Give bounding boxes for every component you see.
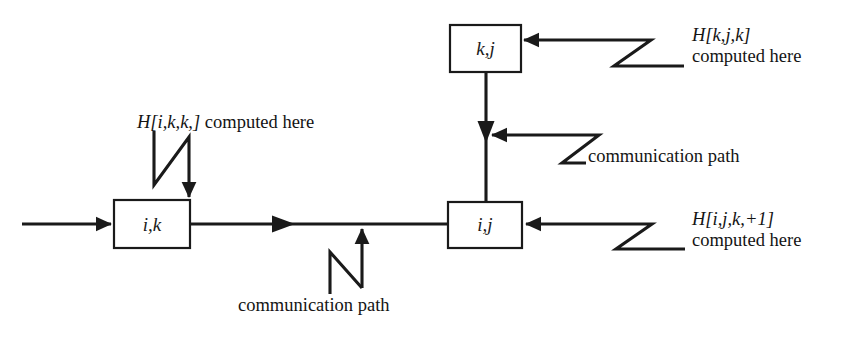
- leader-zigzag-comm-bottom: [330, 252, 362, 294]
- annotation-h-ijk1: H[i,j,k,+1] computed here: [692, 209, 801, 250]
- leader-zigzag-ikk: [154, 131, 189, 185]
- annotation-h-kjk-expression: H[k,j,k]: [692, 25, 751, 45]
- node-label-kj: k,j: [476, 38, 494, 59]
- annotation-communication-path-right: communication path: [588, 146, 740, 167]
- annotation-h-ikk: H[i,k,k,] computed here: [137, 112, 314, 133]
- annotation-h-kjk: H[k,j,k] computed here: [692, 25, 801, 66]
- annotation-h-ijk1-line2: computed here: [692, 230, 801, 251]
- diagram-canvas: i,k k,j i,j H[i,k,k,] computed here H[k,…: [0, 0, 861, 341]
- bus-arrowhead-right: [272, 216, 295, 233]
- leader-zigzag-kjk: [610, 40, 684, 66]
- leader-zigzag-ijk1: [612, 224, 685, 249]
- annotation-h-ijk1-expression: H[i,j,k,+1]: [692, 209, 774, 229]
- annotation-h-kjk-line2: computed here: [692, 46, 801, 67]
- node-label-ik: i,k: [143, 214, 162, 235]
- node-boxes: i,k k,j i,j: [114, 25, 522, 248]
- annotation-h-ikk-expression: H[i,k,k,]: [137, 112, 200, 132]
- node-label-ij: i,j: [477, 214, 492, 235]
- annotation-h-ikk-tail: computed here: [200, 112, 314, 132]
- link-arrowhead-down: [478, 121, 495, 143]
- annotation-communication-path-bottom: communication path: [238, 295, 390, 316]
